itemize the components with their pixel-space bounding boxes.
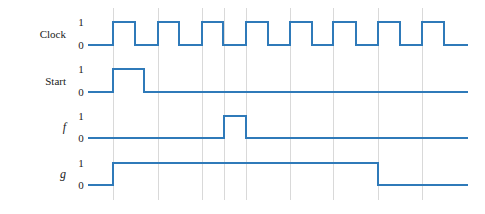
signal-row-start: Start10 (45, 63, 468, 98)
waveform-f (88, 116, 468, 138)
level-label-low-g: 0 (78, 179, 84, 191)
level-label-high-start: 1 (78, 63, 84, 75)
waveform-start (88, 69, 468, 92)
level-label-low-f: 0 (78, 132, 84, 144)
signal-row-g: g10 (60, 157, 468, 191)
timing-diagram: Clock10Start10f10g10 (0, 0, 485, 214)
level-label-low-start: 0 (78, 86, 84, 98)
signal-label-start: Start (45, 75, 66, 87)
signal-row-f: f10 (63, 110, 468, 144)
signal-row-clock: Clock10 (40, 16, 468, 51)
waveform-g (88, 163, 468, 185)
signal-label-clock: Clock (40, 28, 67, 40)
signal-label-g: g (60, 167, 66, 181)
waveform-clock (88, 22, 468, 45)
level-label-high-f: 1 (78, 110, 84, 122)
signal-label-f: f (63, 120, 68, 134)
timing-diagram-canvas: Clock10Start10f10g10 (0, 0, 485, 214)
level-label-high-clock: 1 (78, 16, 84, 28)
level-label-high-g: 1 (78, 157, 84, 169)
level-label-low-clock: 0 (78, 39, 84, 51)
